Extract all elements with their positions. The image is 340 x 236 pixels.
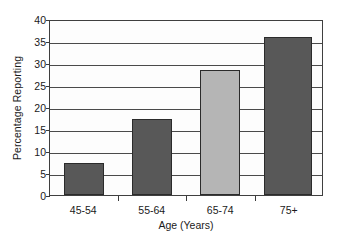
y-tick-label: 35 xyxy=(34,36,46,48)
y-tick-label: 10 xyxy=(34,146,46,158)
bar-slot xyxy=(50,21,118,195)
x-tick-mark xyxy=(118,196,119,201)
bar-slot xyxy=(118,21,186,195)
x-tick-label: 45-54 xyxy=(49,203,118,217)
bar xyxy=(264,37,312,195)
x-tick-label: 65-74 xyxy=(186,203,255,217)
y-tick-label: 15 xyxy=(34,124,46,136)
bar-slot xyxy=(254,21,322,195)
plot-area xyxy=(49,20,323,196)
bar xyxy=(64,163,104,195)
y-tick-label: 30 xyxy=(34,58,46,70)
x-axis-tick-labels: 45-5455-6465-7475+ xyxy=(49,203,323,217)
x-tick-mark xyxy=(186,196,187,201)
bars-layer xyxy=(50,21,322,195)
y-axis-title: Percentage Reporting xyxy=(10,20,24,196)
x-tick-label: 75+ xyxy=(255,203,324,217)
y-tick-label: 40 xyxy=(34,14,46,26)
bar xyxy=(200,70,240,195)
y-tick-label: 20 xyxy=(34,102,46,114)
bar-slot xyxy=(186,21,254,195)
x-tick-mark xyxy=(255,196,256,201)
y-axis-tick-labels: 0510152025303540 xyxy=(24,20,46,196)
x-axis-tick-marks xyxy=(49,196,323,201)
x-axis-title: Age (Years) xyxy=(49,219,323,232)
bar xyxy=(132,119,172,195)
y-tick-label: 25 xyxy=(34,80,46,92)
x-tick-label: 55-64 xyxy=(118,203,187,217)
bar-chart-figure: Percentage Reporting 0510152025303540 45… xyxy=(0,0,340,236)
